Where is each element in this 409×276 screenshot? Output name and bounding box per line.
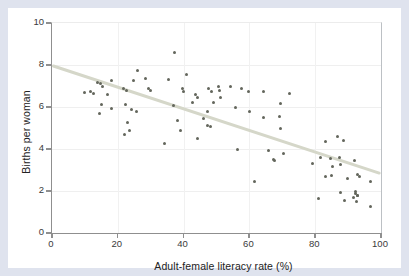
scatter-point: [358, 175, 361, 178]
scatter-point: [101, 85, 104, 88]
scatter-point: [272, 158, 275, 161]
scatter-point: [196, 96, 199, 99]
v-gridline: [184, 23, 185, 233]
scatter-point: [124, 103, 127, 106]
scatter-point: [330, 174, 333, 177]
scatter-point: [136, 69, 139, 72]
scatter-point: [324, 140, 327, 143]
scatter-point: [179, 129, 182, 132]
scatter-point: [279, 127, 282, 130]
scatter-point: [369, 180, 372, 183]
scatter-point: [176, 119, 179, 122]
x-tick-label: 0: [36, 238, 66, 249]
h-gridline: [52, 191, 381, 192]
scatter-point: [234, 106, 237, 109]
scatter-point: [262, 90, 265, 93]
scatter-point: [191, 101, 194, 104]
scatter-point: [185, 73, 188, 76]
scatter-point: [128, 129, 131, 132]
scatter-point: [339, 191, 342, 194]
scatter-point: [83, 91, 86, 94]
scatter-point: [319, 156, 322, 159]
y-tick-label: 2: [14, 185, 44, 195]
scatter-point: [262, 116, 265, 119]
y-tick-mark: [46, 22, 51, 24]
scatter-point: [163, 142, 166, 145]
scatter-point: [209, 125, 212, 128]
v-gridline: [118, 23, 119, 233]
v-gridline: [315, 23, 316, 233]
scatter-point: [125, 89, 128, 92]
scatter-point: [369, 205, 372, 208]
scatter-point: [210, 90, 213, 93]
y-tick-mark: [46, 106, 51, 108]
scatter-point: [173, 51, 176, 54]
scatter-point: [92, 92, 95, 95]
scatter-point: [206, 124, 209, 127]
y-tick-label: 8: [14, 59, 44, 69]
scatter-point: [236, 148, 239, 151]
scatter-point: [343, 199, 346, 202]
scatter-point: [110, 79, 113, 82]
y-tick-mark: [46, 148, 51, 150]
y-tick-label: 4: [14, 143, 44, 153]
y-tick-mark: [46, 190, 51, 192]
x-tick-label: 20: [102, 238, 132, 249]
scatter-point: [132, 79, 135, 82]
figure-frame: Births per woman Adult-female literacy r…: [0, 0, 409, 276]
scatter-point: [202, 117, 205, 120]
scatter-point: [338, 156, 341, 159]
scatter-point: [353, 159, 356, 162]
scatter-point: [282, 152, 285, 155]
scatter-point: [135, 110, 138, 113]
scatter-point: [229, 85, 232, 88]
h-gridline: [52, 149, 381, 150]
y-tick-label: 10: [14, 17, 44, 27]
y-tick-label: 6: [14, 101, 44, 111]
scatter-point: [354, 190, 357, 193]
scatter-point: [130, 108, 133, 111]
scatter-point: [339, 163, 342, 166]
scatter-point: [329, 157, 332, 160]
y-tick-label: 0: [14, 227, 44, 237]
scatter-point: [217, 85, 220, 88]
scatter-point: [267, 149, 270, 152]
scatter-point: [212, 101, 215, 104]
plot-area: [51, 22, 382, 234]
scatter-point: [331, 165, 334, 168]
scatter-point: [144, 77, 147, 80]
scatter-point: [342, 139, 345, 142]
scatter-point: [253, 180, 256, 183]
scatter-point: [149, 89, 152, 92]
trend-line: [52, 64, 382, 175]
x-tick-label: 100: [365, 238, 395, 249]
scatter-point: [336, 135, 339, 138]
scatter-point: [100, 103, 103, 106]
scatter-point: [278, 115, 281, 118]
scatter-point: [219, 96, 222, 99]
scatter-point: [352, 196, 355, 199]
x-tick-label: 60: [233, 238, 263, 249]
scatter-point: [98, 112, 101, 115]
scatter-point: [126, 121, 129, 124]
h-gridline: [52, 107, 381, 108]
scatter-point: [248, 110, 251, 113]
scatter-point: [247, 90, 250, 93]
x-tick-label: 80: [299, 238, 329, 249]
y-tick-mark: [46, 64, 51, 66]
scatter-point: [167, 78, 170, 81]
scatter-point: [206, 110, 209, 113]
x-tick-label: 40: [168, 238, 198, 249]
h-gridline: [52, 65, 381, 66]
x-axis-title: Adult-female literacy rate (%): [59, 260, 388, 272]
scatter-point: [311, 162, 314, 165]
scatter-point: [356, 194, 359, 197]
scatter-point: [240, 87, 243, 90]
scatter-point: [182, 90, 185, 93]
scatter-point: [317, 197, 320, 200]
scatter-point: [279, 102, 282, 105]
scatter-point: [196, 137, 199, 140]
scatter-point: [218, 89, 221, 92]
scatter-point: [288, 92, 291, 95]
y-axis-title: Births per woman: [20, 77, 32, 187]
